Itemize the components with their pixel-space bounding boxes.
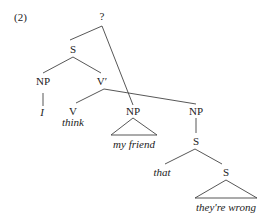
- syntax-tree-diagram: (2) ? S NP I V′ V think NP my friend NP …: [0, 0, 272, 224]
- word-that: that: [153, 166, 171, 178]
- phrase-theyre-wrong: they're wrong: [196, 201, 256, 213]
- node-s-main: S: [70, 43, 76, 55]
- example-number: (2): [14, 11, 27, 24]
- edge-vbar-np-clause: [104, 89, 196, 104]
- edge-vbar-v: [76, 89, 104, 103]
- edge-root-s: [70, 26, 102, 40]
- node-v-bar: V′: [97, 75, 107, 87]
- triangle-my-friend: [111, 118, 157, 135]
- node-np-clause: NP: [189, 105, 203, 117]
- edge-s-np: [43, 57, 73, 73]
- edge-s-s-embedded: [195, 149, 222, 164]
- node-root: ?: [100, 10, 105, 22]
- triangle-theyre-wrong: [195, 180, 257, 198]
- edge-s-vbar: [73, 57, 101, 73]
- node-np-object: NP: [126, 105, 140, 117]
- word-i: I: [39, 106, 45, 118]
- edge-s-that: [165, 149, 195, 164]
- node-np-subject: NP: [36, 75, 50, 87]
- word-think: think: [62, 116, 85, 128]
- node-s-embedded: S: [223, 166, 229, 178]
- phrase-my-friend: my friend: [113, 138, 155, 150]
- node-s-clause: S: [193, 135, 199, 147]
